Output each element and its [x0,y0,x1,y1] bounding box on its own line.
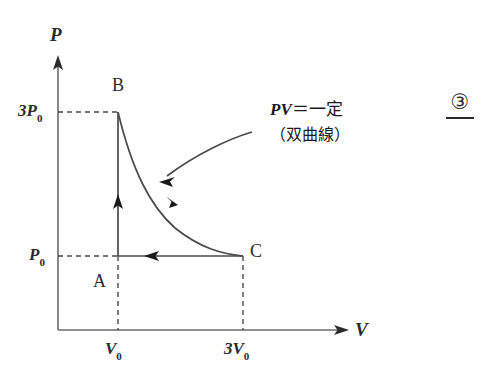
x-axis [58,325,349,335]
isotherm-annotation-const: ＝一定 [292,100,343,119]
isotherm-annotation-pv: PV [270,100,292,119]
pv-diagram-figure: P V 3P0 P0 V0 3V0 A B C PV＝一定 （双曲線） ③ [0,0,502,382]
y-axis [53,55,63,330]
x-tick-v0-sub: 0 [116,350,122,362]
point-label-a: A [93,272,106,290]
answer-marker: ③ [440,92,480,119]
y-tick-3p0-main: 3P [18,101,37,120]
y-tick-p0-sub: 0 [39,256,45,268]
x-tick-label-v0: V0 [105,340,122,360]
point-label-c: C [250,242,262,260]
guide-lines [58,112,243,330]
x-tick-v0-main: V [105,339,116,358]
x-axis-label: V [355,320,368,339]
y-axis-label: P [50,25,62,44]
y-tick-label-p0: P0 [29,246,45,266]
answer-marker-number: ③ [451,92,470,113]
y-tick-3p0-sub: 0 [37,112,43,124]
x-tick-label-3v0: 3V0 [224,340,249,360]
isotherm-annotation-line1: PV＝一定 [270,98,350,123]
y-tick-label-3p0: 3P0 [18,102,42,122]
annotation-arrow [159,132,252,187]
isotherm-annotation-line2: （双曲線） [270,123,350,146]
isotherm-annotation: PV＝一定 （双曲線） [270,98,350,146]
diagram-canvas [0,0,502,382]
x-tick-3v0-sub: 0 [244,350,250,362]
y-tick-p0-main: P [29,245,39,264]
process-a-to-b [113,112,123,256]
answer-marker-underline [446,117,474,119]
process-b-to-c-hyperbola [118,112,243,256]
x-tick-3v0-main: 3V [224,339,244,358]
point-label-b: B [112,76,124,94]
